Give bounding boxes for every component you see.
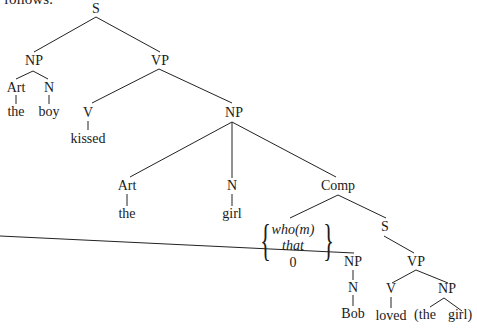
node-VP-embedded: VP xyxy=(407,254,425,270)
left-brace: { xyxy=(260,216,271,266)
node-NP-gap: NP xyxy=(438,281,456,297)
tree-edges xyxy=(0,0,477,334)
leaf-girl-1: girl xyxy=(222,206,241,222)
leaf-loved: loved xyxy=(375,308,406,324)
node-N-2: N xyxy=(227,178,237,194)
node-VP: VP xyxy=(151,53,169,69)
alt-that: that xyxy=(282,238,304,254)
alt-zero: 0 xyxy=(290,255,297,271)
node-N-3: N xyxy=(348,280,358,296)
node-V-2: V xyxy=(386,281,396,297)
leaf-boy: boy xyxy=(39,104,60,120)
node-V-1: V xyxy=(83,105,93,121)
node-Art-2: Art xyxy=(118,178,137,194)
node-Comp: Comp xyxy=(321,178,355,194)
node-N-1: N xyxy=(44,80,54,96)
node-NP-object: NP xyxy=(225,105,243,121)
alt-whom: who(m) xyxy=(272,222,315,238)
node-S-embedded: S xyxy=(381,219,389,235)
right-brace: } xyxy=(323,216,334,266)
leaf-Bob: Bob xyxy=(341,306,364,322)
node-NP-subject: NP xyxy=(25,53,43,69)
leaf-girl-2: girl) xyxy=(448,307,472,323)
node-Art-1: Art xyxy=(7,80,26,96)
leaf-the-3: (the xyxy=(414,307,436,323)
node-NP-Bob: NP xyxy=(344,254,362,270)
syntax-tree-diagram: follows: xyxy=(0,0,477,334)
leaf-kissed: kissed xyxy=(71,131,106,147)
leaf-the-2: the xyxy=(118,206,135,222)
leaf-the-1: the xyxy=(7,104,24,120)
node-S: S xyxy=(92,1,100,17)
